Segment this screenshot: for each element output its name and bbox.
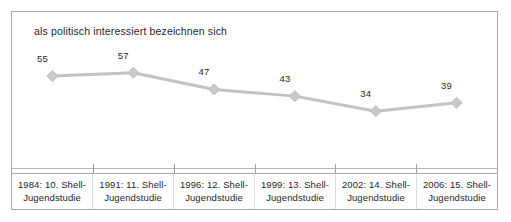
x-axis-label-row: 1984: 10. Shell-Jugendstudie1991: 11. Sh…	[11, 173, 498, 210]
x-axis-label-line1: 1991: 11. Shell-	[99, 179, 166, 192]
x-axis-label-line1: 1999: 13. Shell-	[261, 179, 329, 192]
x-axis-label-cell: 1984: 10. Shell-Jugendstudie	[12, 174, 93, 209]
data-point-marker	[289, 91, 300, 102]
series-line	[52, 73, 456, 111]
value-label: 57	[118, 50, 129, 61]
axis-tick	[255, 164, 256, 173]
x-axis-label-line1: 1984: 10. Shell-	[18, 179, 86, 192]
x-axis-label-line2: Jugendstudie	[428, 192, 486, 205]
x-axis-label-cell: 1991: 11. Shell-Jugendstudie	[93, 174, 174, 209]
data-point-marker	[209, 84, 220, 95]
x-axis-label-line2: Jugendstudie	[347, 192, 405, 205]
x-axis-label-line1: 2006: 15. Shell-	[423, 179, 491, 192]
value-label: 47	[199, 66, 210, 77]
x-axis-label-line2: Jugendstudie	[23, 192, 81, 205]
x-axis-label-line2: Jugendstudie	[185, 192, 243, 205]
data-point-marker	[128, 67, 139, 78]
x-axis-label-line1: 1996: 12. Shell-	[180, 179, 248, 192]
x-axis-label-line1: 2002: 14. Shell-	[342, 179, 410, 192]
axis-tick	[416, 164, 417, 173]
x-axis-label-cell: 2002: 14. Shell-Jugendstudie	[336, 174, 417, 209]
x-axis-label-cell: 2006: 15. Shell-Jugendstudie	[417, 174, 497, 209]
x-axis-label-cell: 1999: 13. Shell-Jugendstudie	[255, 174, 336, 209]
value-label: 39	[441, 80, 452, 91]
value-label: 43	[279, 73, 290, 84]
value-label: 55	[37, 53, 48, 64]
data-point-marker	[370, 106, 381, 117]
value-label: 34	[360, 88, 371, 99]
data-point-marker	[47, 71, 58, 82]
axis-tick	[335, 164, 336, 173]
x-axis-label-cell: 1996: 12. Shell-Jugendstudie	[174, 174, 255, 209]
chart-figure: als politisch interessiert bezeichnen si…	[0, 0, 511, 222]
x-axis-label-line2: Jugendstudie	[104, 192, 162, 205]
axis-tick	[93, 164, 94, 173]
line-series-svg	[11, 11, 498, 171]
axis-tick	[174, 164, 175, 173]
x-axis-label-line2: Jugendstudie	[266, 192, 324, 205]
data-point-marker	[451, 97, 462, 108]
plot-area	[11, 11, 498, 171]
